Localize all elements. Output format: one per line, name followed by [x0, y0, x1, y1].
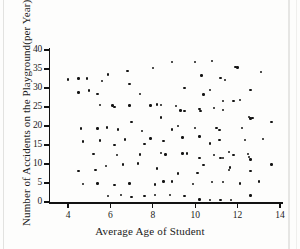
scatter-point [219, 77, 221, 79]
y-axis-tick [44, 49, 49, 50]
scatter-point [143, 143, 145, 145]
scatter-point [222, 100, 224, 102]
scatter-point [198, 198, 200, 200]
x-axis-tick [110, 203, 111, 208]
y-axis-tick [44, 201, 49, 202]
scatter-point [219, 199, 221, 201]
scatter-point [156, 103, 158, 105]
scatter-point [160, 116, 162, 118]
scatter-point [152, 67, 154, 69]
y-axis-tick [44, 144, 49, 145]
scan-edge-left [3, 0, 4, 249]
scatter-point [186, 152, 188, 154]
scatter-point [228, 151, 230, 153]
scatter-point [198, 157, 200, 159]
scatter-point [137, 162, 139, 164]
scatter-point [171, 180, 173, 182]
scatter-point [177, 172, 179, 174]
scatter-point [213, 107, 215, 109]
x-axis-line [49, 202, 283, 204]
x-axis-tick-label: 14 [270, 210, 290, 220]
scatter-point [122, 163, 124, 165]
y-axis-tick [44, 125, 49, 126]
scatter-point [247, 153, 249, 155]
scatter-point [209, 199, 211, 201]
scatter-point [164, 153, 166, 155]
scatter-point [222, 181, 224, 183]
scatter-point [171, 128, 173, 130]
x-axis-tick-label: 10 [185, 210, 205, 220]
scatter-point [96, 182, 98, 184]
scatter-point [258, 180, 260, 182]
scatter-point [222, 157, 224, 159]
scatter-point [99, 139, 101, 141]
scatter-point [213, 154, 215, 156]
scatter-point [82, 140, 84, 142]
scatter-point [183, 87, 185, 89]
scatter-point [198, 135, 200, 137]
scatter-point [77, 91, 79, 93]
scan-edge-right-secondary [296, 0, 297, 249]
scatter-point [262, 138, 264, 140]
scatter-point [126, 70, 128, 72]
scatter-point [249, 170, 251, 172]
scatter-point [94, 169, 96, 171]
scatter-point [162, 180, 164, 182]
scatter-point [239, 99, 241, 101]
scatter-point [77, 77, 79, 79]
scatter-point [154, 183, 156, 185]
scatter-point [113, 106, 115, 108]
scatter-point [141, 130, 143, 132]
scatter-point [67, 78, 69, 80]
scatter-point [106, 126, 108, 128]
scatter-point [251, 117, 253, 119]
scatter-point [113, 184, 115, 186]
scatter-point [77, 170, 79, 172]
scatter-point [230, 199, 232, 201]
scatter-point [218, 129, 220, 131]
scatter-point [270, 121, 272, 123]
scatter-point [219, 157, 221, 159]
scatter-point [162, 140, 164, 142]
scatter-point [160, 152, 162, 154]
scatter-point [244, 139, 246, 141]
y-axis-label: Number of Accidents on the Playground(pe… [20, 6, 32, 226]
scatter-point [209, 142, 211, 144]
scatter-point [96, 127, 98, 129]
x-axis-tick [152, 203, 153, 208]
scatter-point [88, 89, 90, 91]
scatter-point [211, 181, 213, 183]
scatter-point [96, 93, 98, 95]
scatter-point [229, 166, 231, 168]
scatter-point [120, 194, 122, 196]
scatter-point [86, 77, 88, 79]
scatter-point [107, 73, 109, 75]
scatter-point [270, 163, 272, 165]
scatter-point [101, 80, 103, 82]
scatter-point [183, 110, 185, 112]
x-axis-tick [67, 203, 68, 208]
scatter-point [224, 79, 226, 81]
scatter-point [99, 104, 101, 106]
scatter-point [156, 167, 158, 169]
scatter-point [128, 104, 130, 106]
x-axis-tick-label: 8 [143, 210, 163, 220]
scatter-point [249, 89, 251, 91]
x-axis-tick-label: 6 [100, 210, 120, 220]
scatter-point [222, 109, 224, 111]
x-axis-tick [237, 203, 238, 208]
scatter-point [107, 195, 109, 197]
scatter-point [211, 60, 213, 62]
scatter-point [177, 125, 179, 127]
scatter-plot-figure: 0510152025303540 468101214 Average Age o… [0, 0, 300, 249]
x-axis-label: Average Age of Student [0, 225, 300, 237]
x-axis-tick-label: 4 [58, 210, 78, 220]
scatter-point [192, 183, 194, 185]
scatter-point [179, 109, 181, 111]
scatter-point [181, 152, 183, 154]
scatter-point [183, 195, 185, 197]
scatter-point [139, 93, 141, 95]
scatter-point [249, 158, 251, 160]
scatter-point [200, 74, 202, 76]
scatter-point [130, 196, 132, 198]
